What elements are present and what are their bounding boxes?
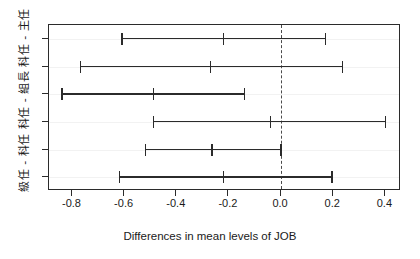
y-axis-tick	[42, 149, 48, 150]
y-axis-tick	[42, 176, 48, 177]
interval-upper-tick	[244, 88, 246, 100]
interval-lower-tick	[80, 61, 82, 73]
confidence-interval-row	[49, 87, 399, 101]
confidence-interval-row	[49, 32, 399, 46]
x-axis-tick-label: 0.0	[272, 197, 287, 209]
interval-lower-tick	[121, 33, 123, 45]
interval-upper-tick	[331, 171, 333, 183]
x-axis-tick-label: -0.2	[218, 197, 237, 209]
interval-lower-tick	[119, 171, 121, 183]
confidence-interval-row	[49, 115, 399, 129]
y-axis-tick	[42, 93, 48, 94]
interval-bar	[119, 176, 332, 178]
y-axis-label-container: 級任 - 科任 科任 - 組長 科任 - 主任	[0, 0, 46, 200]
interval-upper-tick	[280, 144, 282, 156]
y-axis-tick	[42, 66, 48, 67]
x-axis-tick	[384, 190, 385, 196]
interval-upper-tick	[385, 116, 387, 128]
interval-lower-tick	[61, 88, 63, 100]
y-axis-tick	[42, 38, 48, 39]
interval-estimate-tick	[153, 88, 155, 100]
x-axis-tick-label: 0.4	[377, 197, 392, 209]
interval-estimate-tick	[270, 116, 272, 128]
x-axis-tick	[280, 190, 281, 196]
plot-panel	[48, 24, 400, 190]
interval-bar	[146, 149, 282, 151]
interval-upper-tick	[325, 33, 327, 45]
interval-upper-tick	[342, 61, 344, 73]
x-axis-title: Differences in mean levels of JOB	[0, 230, 420, 242]
x-axis-tick	[227, 190, 228, 196]
interval-estimate-tick	[210, 61, 212, 73]
x-axis-tick	[71, 190, 72, 196]
interval-lower-tick	[145, 144, 147, 156]
x-axis-tick-label: -0.8	[62, 197, 81, 209]
confidence-interval-row	[49, 143, 399, 157]
x-axis-tick	[123, 190, 124, 196]
interval-lower-tick	[153, 116, 155, 128]
y-axis-tick	[42, 121, 48, 122]
interval-estimate-tick	[223, 171, 225, 183]
interval-estimate-tick	[211, 144, 213, 156]
tukey-hsd-plot: 級任 - 科任 科任 - 組長 科任 - 主任 -0.8-0.6-0.4-0.2…	[0, 0, 420, 259]
x-axis-tick	[332, 190, 333, 196]
x-axis-tick-label: -0.6	[114, 197, 133, 209]
y-axis-label: 級任 - 科任 科任 - 組長 科任 - 主任	[15, 8, 31, 191]
x-axis-tick	[175, 190, 176, 196]
confidence-interval-row	[49, 170, 399, 184]
zero-reference-line	[281, 25, 282, 189]
confidence-interval-row	[49, 60, 399, 74]
x-axis-tick-label: 0.2	[325, 197, 340, 209]
x-axis-tick-label: -0.4	[166, 197, 185, 209]
interval-estimate-tick	[223, 33, 225, 45]
